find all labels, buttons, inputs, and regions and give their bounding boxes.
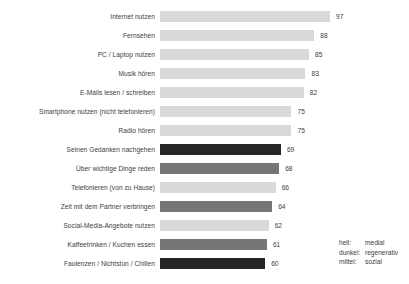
- bar-category-label: Über wichtige Dinge reden: [0, 165, 155, 173]
- bar-chart: Internet nutzen97Fernsehen88PC / Laptop …: [0, 0, 409, 284]
- bar-value-label: 69: [287, 145, 294, 154]
- legend-value: medial: [365, 238, 384, 248]
- legend-key: dunkel:: [339, 248, 365, 258]
- bar-category-label: Faulenzen / Nichtstun / Chillen: [0, 260, 155, 268]
- bar-category-label: PC / Laptop nutzen: [0, 51, 155, 59]
- bar-value-label: 97: [336, 12, 343, 21]
- bar-category-label: Seinen Gedanken nachgehen: [0, 146, 155, 154]
- bar-row: Smartphone nutzen (nicht telefonieren)75: [0, 102, 409, 121]
- bar-mittel: [160, 239, 267, 250]
- bar-dunkel: [160, 144, 281, 155]
- chart-legend: hell:medialdunkel:regenerativmittel:sozi…: [339, 238, 398, 267]
- bar-hell: [160, 87, 304, 98]
- bar-track: 88: [160, 30, 409, 41]
- bar-category-label: Kaffeetrinken / Kuchen essen: [0, 241, 155, 249]
- bar-value-label: 62: [275, 221, 282, 230]
- bar-hell: [160, 125, 291, 136]
- bar-category-label: Fernsehen: [0, 32, 155, 40]
- bar-category-label: Musik hören: [0, 70, 155, 78]
- legend-key: mittel:: [339, 257, 365, 267]
- bar-value-label: 68: [285, 164, 292, 173]
- bar-hell: [160, 106, 291, 117]
- bar-value-label: 64: [278, 202, 285, 211]
- bar-track: 62: [160, 220, 409, 231]
- bar-hell: [160, 49, 309, 60]
- bar-hell: [160, 11, 330, 22]
- bar-category-label: Zeit mit dem Partner verbringen: [0, 203, 155, 211]
- bar-hell: [160, 30, 314, 41]
- bar-value-label: 83: [311, 69, 318, 78]
- bar-value-label: 88: [320, 31, 327, 40]
- bar-row: Musik hören83: [0, 64, 409, 83]
- bar-rows: Internet nutzen97Fernsehen88PC / Laptop …: [0, 7, 409, 273]
- bar-hell: [160, 220, 269, 231]
- bar-category-label: Telefonieren (von zu Hause): [0, 184, 155, 192]
- bar-track: 97: [160, 11, 409, 22]
- bar-category-label: E-Mails lesen / schreiben: [0, 89, 155, 97]
- bar-track: 75: [160, 106, 409, 117]
- bar-dunkel: [160, 258, 265, 269]
- bar-value-label: 82: [310, 88, 317, 97]
- legend-item: mittel:sozial: [339, 257, 398, 267]
- bar-category-label: Smartphone nutzen (nicht telefonieren): [0, 108, 155, 116]
- bar-row: Seinen Gedanken nachgehen69: [0, 140, 409, 159]
- bar-track: 64: [160, 201, 409, 212]
- bar-category-label: Social-Media-Angebote nutzen: [0, 222, 155, 230]
- legend-value: regenerativ: [365, 248, 398, 258]
- bar-row: PC / Laptop nutzen85: [0, 45, 409, 64]
- bar-mittel: [160, 163, 279, 174]
- legend-key: hell:: [339, 238, 365, 248]
- bar-track: 82: [160, 87, 409, 98]
- bar-hell: [160, 68, 305, 79]
- bar-track: 66: [160, 182, 409, 193]
- bar-row: Radio hören75: [0, 121, 409, 140]
- bar-category-label: Internet nutzen: [0, 13, 155, 21]
- bar-row: Fernsehen88: [0, 26, 409, 45]
- bar-value-label: 60: [271, 259, 278, 268]
- bar-track: 85: [160, 49, 409, 60]
- legend-item: hell:medial: [339, 238, 398, 248]
- bar-mittel: [160, 201, 272, 212]
- bar-row: Internet nutzen97: [0, 7, 409, 26]
- bar-track: 75: [160, 125, 409, 136]
- bar-row: Zeit mit dem Partner verbringen64: [0, 197, 409, 216]
- bar-value-label: 75: [297, 107, 304, 116]
- legend-value: sozial: [365, 257, 382, 267]
- bar-row: E-Mails lesen / schreiben82: [0, 83, 409, 102]
- bar-row: Telefonieren (von zu Hause)66: [0, 178, 409, 197]
- bar-row: Über wichtige Dinge reden68: [0, 159, 409, 178]
- bar-track: 69: [160, 144, 409, 155]
- bar-track: 68: [160, 163, 409, 174]
- legend-item: dunkel:regenerativ: [339, 248, 398, 258]
- bar-value-label: 66: [282, 183, 289, 192]
- bar-value-label: 85: [315, 50, 322, 59]
- bar-category-label: Radio hören: [0, 127, 155, 135]
- bar-row: Social-Media-Angebote nutzen62: [0, 216, 409, 235]
- bar-hell: [160, 182, 276, 193]
- bar-value-label: 75: [297, 126, 304, 135]
- bar-track: 83: [160, 68, 409, 79]
- bar-value-label: 61: [273, 240, 280, 249]
